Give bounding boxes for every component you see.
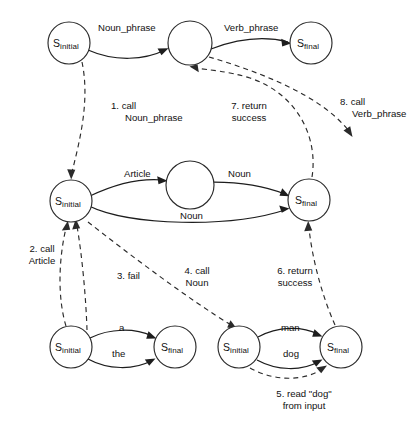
arrowhead-noun-upper bbox=[280, 188, 290, 196]
arrowhead-word-dog bbox=[312, 360, 323, 367]
arrowhead-read-dog bbox=[316, 366, 327, 374]
arrowhead-word-man bbox=[312, 329, 322, 337]
edge-call-noun-phrase bbox=[72, 62, 85, 172]
arrowhead-call-verb-phrase bbox=[344, 126, 353, 137]
state-mid-middle[interactable] bbox=[166, 161, 214, 209]
edge-call-article bbox=[60, 228, 66, 326]
edge-article bbox=[90, 180, 163, 196]
edge-fail bbox=[77, 226, 87, 330]
state-br-initial[interactable] bbox=[218, 326, 260, 368]
edge-call-noun bbox=[88, 222, 231, 325]
edge-word-the bbox=[88, 359, 151, 368]
edge-noun-upper bbox=[214, 182, 285, 194]
state-top-initial[interactable] bbox=[48, 22, 90, 64]
edge-return-success-7 bbox=[196, 68, 313, 177]
diagram-graphics bbox=[0, 0, 420, 428]
arrowhead-call-noun-phrase bbox=[67, 169, 75, 179]
state-bl-initial[interactable] bbox=[50, 326, 92, 368]
state-top-middle[interactable] bbox=[168, 21, 212, 65]
edge-read-dog bbox=[250, 368, 322, 378]
edge-noun-phrase bbox=[88, 50, 165, 58]
state-mid-final[interactable] bbox=[288, 179, 330, 221]
edge-word-a bbox=[90, 330, 152, 338]
state-top-final[interactable] bbox=[290, 22, 332, 64]
state-bl-final[interactable] bbox=[154, 326, 196, 368]
edge-word-dog bbox=[257, 360, 318, 369]
diagram-canvas: Sinitial Sfinal Sinitial Sfinal Sinitial… bbox=[0, 0, 420, 428]
arrowhead-word-the bbox=[145, 359, 156, 366]
state-br-final[interactable] bbox=[320, 326, 362, 368]
state-mid-initial[interactable] bbox=[50, 180, 92, 222]
edge-return-success-6 bbox=[309, 228, 335, 325]
arrowhead-return-success-6 bbox=[304, 221, 312, 231]
arrowhead-word-a bbox=[146, 331, 156, 339]
edge-verb-phrase bbox=[211, 39, 288, 49]
arrowhead-noun-phrase bbox=[158, 48, 169, 55]
edge-word-man bbox=[258, 328, 318, 337]
